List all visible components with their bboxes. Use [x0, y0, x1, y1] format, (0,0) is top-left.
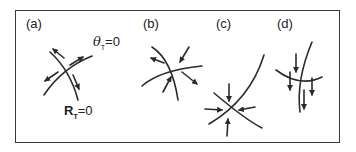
panel-d-curves	[276, 42, 322, 112]
panel-b-arrows	[151, 47, 197, 92]
panel-c-arrows	[205, 84, 255, 136]
diagram-figure: (a) (b) (c) (d) θT=0 RT=0	[0, 0, 356, 152]
panel-b-curves	[142, 47, 202, 100]
panel-c-curves	[209, 55, 264, 128]
diagram-drawing	[0, 0, 356, 152]
